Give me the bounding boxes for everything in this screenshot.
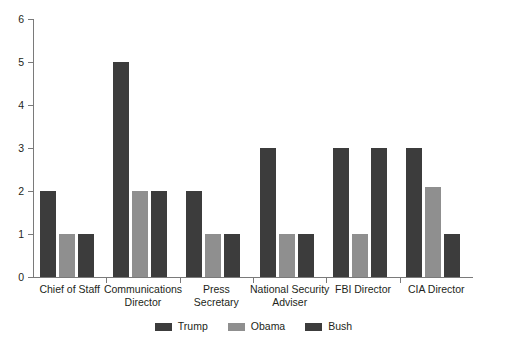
bar-obama-1 [132, 191, 148, 277]
y-axis-tick-label: 6 [4, 14, 24, 24]
legend-item-obama: Obama [228, 321, 285, 332]
chart-legend: TrumpObamaBush [0, 321, 507, 332]
bar-bush-5 [444, 234, 460, 277]
bar-trump-5 [406, 148, 422, 277]
bar-trump-3 [260, 148, 276, 277]
legend-item-trump: Trump [155, 321, 208, 332]
bar-obama-3 [279, 234, 295, 277]
y-axis-tick-label: 5 [4, 57, 24, 67]
bar-bush-4 [371, 148, 387, 277]
bar-bush-3 [298, 234, 314, 277]
legend-swatch-icon [155, 323, 172, 331]
bar-trump-0 [40, 191, 56, 277]
y-axis-tick-label: 4 [4, 100, 24, 110]
bar-trump-1 [113, 62, 129, 277]
bar-bush-2 [224, 234, 240, 277]
legend-label: Trump [178, 321, 208, 332]
bar-obama-0 [59, 234, 75, 277]
y-axis-tick [28, 277, 33, 278]
legend-swatch-icon [228, 323, 245, 331]
legend-label: Bush [328, 321, 352, 332]
bar-trump-2 [186, 191, 202, 277]
y-axis-tick-label: 0 [4, 272, 24, 282]
legend-swatch-icon [305, 323, 322, 331]
bar-obama-4 [352, 234, 368, 277]
y-axis-tick-label: 1 [4, 229, 24, 239]
bar-chart: 0123456 Chief of StaffCommunications Dir… [0, 0, 507, 352]
y-axis-tick-label: 3 [4, 143, 24, 153]
bar-bush-1 [151, 191, 167, 277]
y-axis-tick-label: 2 [4, 186, 24, 196]
legend-label: Obama [251, 321, 285, 332]
plot-area [33, 19, 473, 277]
category-label: CIA Director [390, 283, 483, 296]
bar-obama-5 [425, 187, 441, 277]
bar-bush-0 [78, 234, 94, 277]
bar-trump-4 [333, 148, 349, 277]
bar-obama-2 [205, 234, 221, 277]
legend-item-bush: Bush [305, 321, 352, 332]
